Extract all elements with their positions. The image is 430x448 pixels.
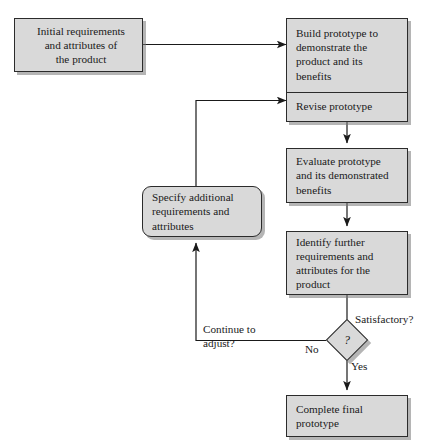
evaluate-prototype-label: Evaluate prototype and its demonstrated …: [287, 154, 407, 197]
block-divider: [287, 92, 407, 93]
complete-final-prototype-label: Complete final prototype: [287, 402, 407, 430]
initial-requirements-label: Initial requirements and attributes of t…: [15, 24, 142, 67]
no-branch-label: No: [305, 343, 319, 357]
decision-symbol: ?: [326, 334, 368, 346]
edge-specify-to-revise: [196, 101, 286, 187]
specify-additional-requirements-label: Specify additional requirements and attr…: [143, 190, 261, 233]
identify-further-requirements-label: Identify further requirements and attrib…: [287, 235, 407, 292]
initial-requirements-box: Initial requirements and attributes of t…: [14, 18, 143, 72]
specify-additional-requirements-box: Specify additional requirements and attr…: [142, 186, 262, 237]
satisfactory-label: Satisfactory?: [355, 313, 413, 327]
evaluate-prototype-box: Evaluate prototype and its demonstrated …: [286, 148, 408, 203]
yes-branch-label: Yes: [351, 360, 367, 374]
identify-further-requirements-box: Identify further requirements and attrib…: [286, 231, 408, 295]
build-prototype-label: Build prototype to demonstrate the produ…: [287, 26, 407, 83]
continue-adjust-label: Continue to adjust?: [203, 323, 256, 350]
complete-final-prototype-box: Complete final prototype: [286, 395, 408, 437]
revise-prototype-label: Revise prototype: [287, 99, 407, 113]
flowchart-canvas: Initial requirements and attributes of t…: [0, 0, 430, 448]
build-and-revise-block: Build prototype to demonstrate the produ…: [286, 18, 408, 122]
